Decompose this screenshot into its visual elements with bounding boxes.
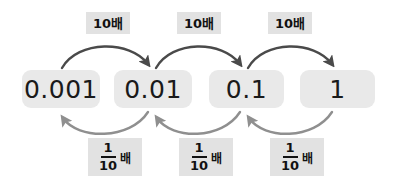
multiplier-chip-forward-0: 10배 — [86, 12, 130, 34]
multiplier-chip-forward-1: 10배 — [177, 12, 221, 34]
multiplier-chip-backward-1: 1 10 배 — [179, 138, 233, 176]
forward-arrow-2 — [248, 46, 332, 68]
value-label-0: 0.001 — [24, 77, 98, 102]
backward-arrows — [63, 112, 332, 134]
fraction-backward-1: 1 10 — [190, 141, 208, 172]
fraction-numerator-2: 1 — [285, 141, 294, 155]
value-box-2: 0.1 — [209, 70, 284, 108]
decimal-place-value-diagram: 10배 10배 10배 0.001 0.01 0.1 1 1 10 배 1 10… — [0, 0, 394, 188]
fraction-backward-0: 1 10 — [99, 141, 117, 172]
fraction-denominator-2: 10 — [281, 159, 299, 173]
multiplier-chip-forward-2: 10배 — [268, 12, 312, 34]
value-box-1: 0.01 — [114, 70, 192, 108]
value-label-3: 1 — [329, 77, 345, 102]
fraction-denominator-0: 10 — [99, 159, 117, 173]
backward-arrow-0 — [63, 112, 148, 134]
forward-arrow-1 — [156, 46, 240, 68]
fraction-numerator-1: 1 — [194, 141, 203, 155]
multiplier-chip-backward-0: 1 10 배 — [88, 138, 142, 176]
multiplier-label-forward-0: 10배 — [93, 17, 123, 30]
forward-arrow-0 — [62, 46, 148, 68]
value-label-2: 0.1 — [226, 77, 267, 102]
multiplier-unit-backward-0: 배 — [120, 153, 131, 165]
multiplier-unit-backward-2: 배 — [302, 153, 313, 165]
fraction-backward-2: 1 10 — [281, 141, 299, 172]
value-label-1: 0.01 — [124, 77, 182, 102]
fraction-denominator-1: 10 — [190, 159, 208, 173]
backward-arrow-1 — [157, 112, 240, 134]
multiplier-unit-backward-1: 배 — [211, 153, 222, 165]
value-box-0: 0.001 — [22, 70, 100, 108]
fraction-numerator-0: 1 — [103, 141, 112, 155]
backward-arrow-2 — [249, 112, 332, 134]
multiplier-label-forward-2: 10배 — [275, 17, 305, 30]
forward-arrows — [62, 46, 332, 68]
multiplier-label-forward-1: 10배 — [184, 17, 214, 30]
multiplier-chip-backward-2: 1 10 배 — [270, 138, 324, 176]
value-box-3: 1 — [300, 70, 375, 108]
